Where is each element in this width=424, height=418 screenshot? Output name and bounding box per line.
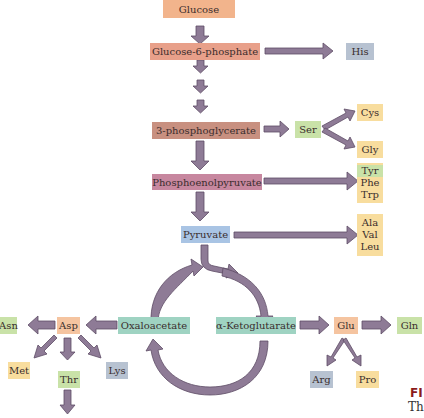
figure-label: FI	[410, 386, 423, 400]
node-leu: Leu	[361, 241, 380, 253]
node-glucose: Glucose	[163, 0, 235, 18]
arrow-glucose-g6p	[191, 26, 209, 44]
node-thr: Thr	[58, 371, 80, 388]
node-asn: Asn	[0, 317, 17, 334]
arrow-asp-asn	[28, 316, 55, 334]
cycle-arc-bottom	[146, 339, 268, 395]
arrow-asp-met	[34, 335, 57, 358]
node-met: Met	[8, 362, 30, 379]
node-arg: Arg	[310, 371, 333, 388]
arrow-pep-pyruvate	[191, 192, 209, 221]
arrow-g6p-step2	[193, 80, 208, 93]
node-gln: Gln	[397, 317, 422, 334]
arrow-glu-gln	[362, 316, 391, 334]
node-phe: Phe	[360, 177, 379, 189]
caption-text: Th	[408, 400, 424, 414]
arrow-ser-gly	[322, 128, 355, 149]
node-aromatic-group: Tyr Phe Trp	[357, 163, 383, 203]
arrow-asp-lys	[78, 335, 101, 358]
node-pyruvate: Pyruvate	[181, 226, 230, 243]
arrow-3pg-pep	[191, 141, 209, 170]
node-asp: Asp	[57, 317, 80, 334]
arrow-g6p-step3	[193, 100, 208, 113]
node-phosphoenolpyruvate: Phosphoenolpyruvate	[152, 174, 262, 190]
arrow-g6p-step1	[193, 60, 208, 73]
node-pro: Pro	[356, 371, 379, 388]
arrow-ser-cys	[322, 109, 355, 130]
node-3-phosphoglycerate: 3-phosphoglycerate	[152, 122, 260, 139]
node-gly: Gly	[357, 141, 383, 158]
arrow-oaa-asp	[86, 316, 117, 334]
arrow-glu-pro	[343, 338, 361, 366]
node-his: His	[346, 43, 374, 60]
arrow-3pg-ser	[264, 121, 289, 137]
arrow-akg-glu	[300, 316, 329, 334]
arrow-asp-thr	[60, 338, 75, 360]
node-oxaloacetate: Oxaloacetate	[118, 317, 190, 334]
node-alpha-ketoglutarate: α-Ketoglutarate	[216, 317, 296, 334]
arrow-pep-aromatic	[264, 172, 358, 190]
node-bcaa-group: Ala Val Leu	[357, 214, 383, 256]
node-cys: Cys	[357, 104, 383, 121]
node-glucose-6-phosphate: Glucose-6-phosphate	[150, 43, 260, 60]
arrow-glu-arg	[327, 338, 345, 366]
node-ala: Ala	[362, 217, 378, 229]
arrow-thr-down	[60, 390, 75, 414]
node-trp: Trp	[361, 189, 379, 201]
node-glu: Glu	[334, 317, 358, 334]
node-ser: Ser	[295, 121, 321, 138]
node-tyr: Tyr	[357, 165, 383, 177]
node-val: Val	[362, 229, 377, 241]
arrow-pyruvate-bcaa	[234, 226, 358, 244]
node-lys: Lys	[106, 362, 128, 379]
cycle-arc-top-left	[151, 259, 203, 322]
arrow-g6p-his	[265, 43, 333, 59]
